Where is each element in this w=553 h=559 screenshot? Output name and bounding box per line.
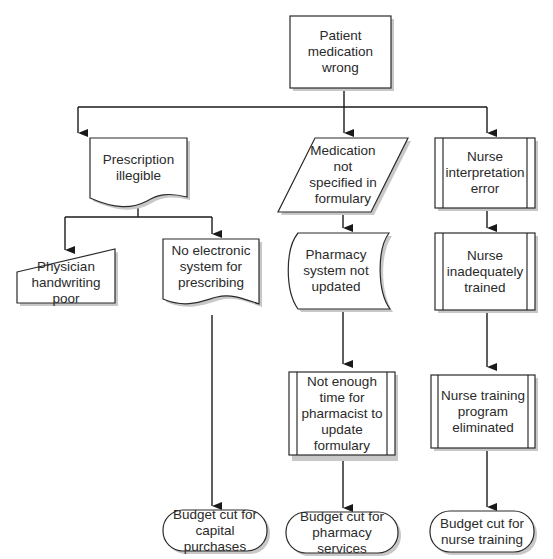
label-budget-cut-nurse: Budget cut for nurse training [430, 511, 534, 552]
label-patient-medication-wrong: Patient medication wrong [290, 16, 391, 88]
label-budget-cut-capital: Budget cut for capital purchases [163, 510, 267, 551]
label-nurse-interpretation-error: Nurse interpretation error [443, 138, 527, 208]
label-not-enough-time: Not enough time for pharmacist to update… [297, 372, 387, 455]
label-physician-handwriting-poor: Physician handwriting poor [17, 262, 115, 303]
label-prescription-illegible: Prescription illegible [90, 138, 187, 198]
label-no-electronic-system: No electronic system for prescribing [163, 239, 259, 295]
label-budget-cut-pharmacy: Budget cut for pharmacy services [286, 512, 398, 553]
label-nurse-inadequately-trained: Nurse inadequately trained [443, 233, 527, 310]
label-pharmacy-system-not-updated: Pharmacy system not updated [290, 233, 382, 309]
label-nurse-training-eliminated: Nurse training program eliminated [438, 375, 528, 448]
label-medication-not-specified: Medication not specified in formulary [290, 138, 396, 212]
